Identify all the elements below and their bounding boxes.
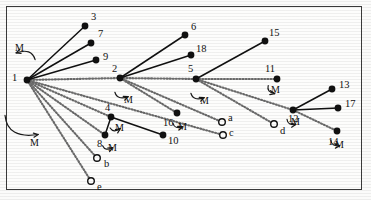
arc-label-m-3: M bbox=[200, 96, 209, 106]
node-label-3: 3 bbox=[91, 12, 96, 23]
arc-label-m-8: M bbox=[108, 143, 117, 153]
solid-edge-2-6 bbox=[120, 35, 185, 78]
node-dot-6 bbox=[182, 32, 189, 39]
node-circle-e bbox=[88, 178, 95, 185]
arc-label-m-1: M bbox=[15, 43, 24, 53]
node-label-c: c bbox=[229, 128, 234, 139]
node-label-18: 18 bbox=[196, 44, 207, 55]
node-dot-16 bbox=[174, 110, 181, 117]
arc-label-m-2: M bbox=[124, 95, 133, 105]
arc-label-m-4: M bbox=[271, 85, 280, 95]
node-label-5: 5 bbox=[188, 64, 193, 75]
node-group bbox=[24, 23, 342, 185]
node-dot-14 bbox=[334, 128, 341, 135]
node-dot-11 bbox=[274, 76, 281, 83]
node-dot-4 bbox=[108, 114, 115, 121]
node-label-a: a bbox=[228, 113, 233, 124]
arc-label-m-9: M bbox=[178, 122, 187, 132]
arc-curve-0 bbox=[5, 115, 38, 135]
node-label-d: d bbox=[280, 126, 285, 137]
diagram-vector-layer bbox=[0, 0, 371, 200]
node-label-7: 7 bbox=[98, 29, 103, 40]
node-dot-17 bbox=[335, 105, 342, 112]
arc-label-m-0: M bbox=[30, 138, 39, 148]
node-label-17: 17 bbox=[345, 99, 356, 110]
node-label-9: 9 bbox=[103, 52, 108, 63]
node-label-b: b bbox=[104, 159, 109, 170]
node-dot-8 bbox=[102, 132, 109, 139]
solid-edge-1-7 bbox=[27, 43, 91, 80]
node-circle-b bbox=[94, 155, 101, 162]
node-dot-18 bbox=[188, 52, 195, 59]
node-dot-1 bbox=[24, 77, 31, 84]
node-dot-13 bbox=[329, 86, 336, 93]
diagram-canvas: MMMMMMMMMM125123796181511131714481016acd… bbox=[0, 0, 371, 200]
node-label-1: 1 bbox=[12, 73, 17, 84]
node-dot-10 bbox=[160, 132, 167, 139]
node-dot-3 bbox=[82, 23, 89, 30]
dotted-edge-1-8 bbox=[27, 80, 105, 135]
node-circle-c bbox=[220, 132, 227, 139]
node-dot-2 bbox=[117, 75, 124, 82]
solid-edge-2-18 bbox=[120, 55, 191, 78]
dotted-edge-1-2 bbox=[27, 78, 120, 80]
node-circle-a bbox=[219, 119, 226, 126]
node-dot-9 bbox=[93, 57, 100, 64]
node-label-13: 13 bbox=[339, 80, 350, 91]
solid-edge-12-13 bbox=[293, 89, 332, 110]
node-dot-7 bbox=[88, 40, 95, 47]
node-label-2: 2 bbox=[112, 64, 117, 75]
node-label-4: 4 bbox=[105, 103, 110, 114]
node-label-14: 14 bbox=[328, 137, 339, 148]
node-label-e: e bbox=[97, 182, 102, 193]
dotted-edge-2-5 bbox=[120, 78, 196, 79]
solid-edge-12-17 bbox=[293, 108, 338, 110]
node-label-10: 10 bbox=[168, 136, 179, 147]
node-circle-d bbox=[271, 121, 278, 128]
node-label-11: 11 bbox=[265, 64, 275, 75]
node-label-15: 15 bbox=[269, 28, 280, 39]
node-dot-5 bbox=[193, 76, 200, 83]
node-label-6: 6 bbox=[191, 22, 196, 33]
node-label-8: 8 bbox=[97, 139, 102, 150]
node-label-12: 12 bbox=[288, 114, 299, 125]
node-label-16: 16 bbox=[163, 118, 174, 129]
node-dot-15 bbox=[262, 38, 269, 45]
arc-label-m-7: M bbox=[115, 123, 124, 133]
